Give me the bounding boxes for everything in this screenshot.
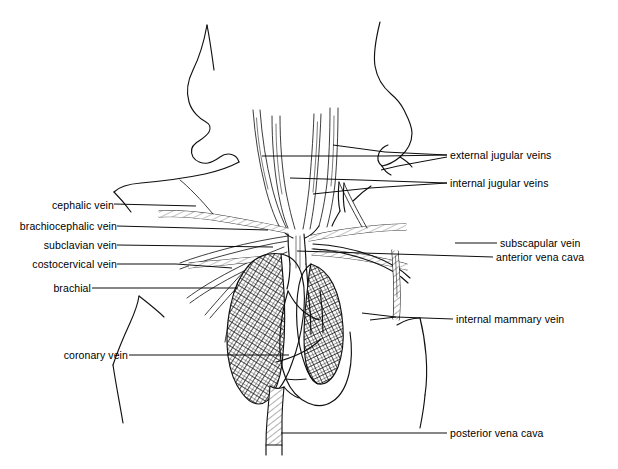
leader-internal-mammary-vein-2 <box>370 317 396 320</box>
label-internal-jugular-veins-text: internal jugular veins <box>450 177 549 189</box>
leader-external-jugular-b <box>333 145 447 155</box>
leader-internal-jugular-a <box>290 178 447 183</box>
leader-internal-jugular-b <box>313 183 447 194</box>
label-anterior-vena-cava: anterior vena cava <box>496 251 584 263</box>
label-costocervical-vein: costocervical vein <box>0 258 117 270</box>
figure-canvas: cephalic vein brachiocephalic vein subcl… <box>0 0 618 469</box>
jugular-vein-group <box>253 108 338 238</box>
label-brachiocephalic-vein-text: brachiocephalic vein <box>20 220 117 232</box>
label-cephalic-vein-text: cephalic vein <box>52 199 114 211</box>
label-brachial-text: brachial <box>53 282 91 294</box>
label-coronary-vein: coronary vein <box>0 349 128 361</box>
central-venous-trunk <box>287 234 308 291</box>
label-brachial: brachial <box>0 282 91 294</box>
label-cephalic-vein: cephalic vein <box>0 199 114 211</box>
heart <box>227 253 351 455</box>
label-external-jugular-veins: external jugular veins <box>450 149 551 161</box>
label-subscapular-vein-text: subscapular vein <box>500 237 580 249</box>
leader-external-jugular-a <box>262 155 447 156</box>
label-subscapular-vein: subscapular vein <box>500 237 580 249</box>
label-subclavian-vein-text: subclavian vein <box>44 239 117 251</box>
label-posterior-vena-cava-text: posterior vena cava <box>450 427 544 439</box>
label-costocervical-vein-text: costocervical vein <box>32 258 117 270</box>
label-subclavian-vein: subclavian vein <box>0 239 117 251</box>
anatomical-line-drawing <box>0 0 618 469</box>
leader-lines <box>92 145 497 433</box>
label-brachiocephalic-vein: brachiocephalic vein <box>0 220 117 232</box>
label-coronary-vein-text: coronary vein <box>64 349 128 361</box>
leader-brachiocephalic-vein <box>117 226 268 230</box>
leader-internal-mammary-vein <box>362 313 453 319</box>
label-external-jugular-veins-text: external jugular veins <box>450 149 551 161</box>
label-internal-mammary-vein-text: internal mammary vein <box>456 313 564 325</box>
label-posterior-vena-cava: posterior vena cava <box>450 427 544 439</box>
leader-subclavian-vein <box>117 245 273 247</box>
label-anterior-vena-cava-text: anterior vena cava <box>496 251 584 263</box>
label-internal-jugular-veins: internal jugular veins <box>450 177 549 189</box>
label-internal-mammary-vein: internal mammary vein <box>456 313 564 325</box>
